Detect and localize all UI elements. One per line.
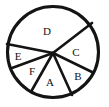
sector-label-a: A <box>46 76 54 88</box>
sector-label-e: E <box>15 50 22 62</box>
pie-chart-svg: A B C D E F <box>0 0 109 107</box>
sector-label-c: C <box>72 46 79 58</box>
sector-label-f: F <box>29 65 35 77</box>
sector-label-d: D <box>43 25 51 37</box>
pie-chart-figure: A B C D E F <box>0 0 109 107</box>
sector-label-b: B <box>74 70 81 82</box>
